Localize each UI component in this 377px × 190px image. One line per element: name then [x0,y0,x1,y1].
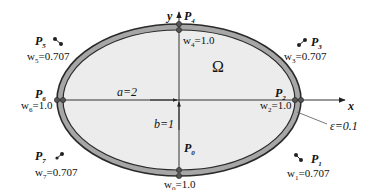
node-p2-outer [298,97,303,102]
p7-glyph-icon [55,152,64,160]
label-p5: P5 [35,34,46,50]
nurbs-ellipse-diagram: x y P4 [0,0,377,190]
node-p0-inner [176,167,181,172]
weight-w5: w5=0.707 [27,50,70,65]
y-axis-label: y [165,9,173,23]
label-p1: P1 [311,152,322,168]
p1-glyph-icon [294,153,303,162]
node-p4-outer [176,21,181,26]
p3-glyph-icon [297,38,307,47]
epsilon-label: ε=0.1 [330,119,358,133]
domain-omega-label: Ω [212,58,224,75]
a-dimension-label: a=2 [117,85,137,99]
x-axis-label: x [347,99,354,113]
p5-glyph-icon [53,37,63,46]
node-p4-inner [176,27,181,32]
node-p2-inner [292,97,297,102]
epsilon-leader-line [297,112,327,124]
node-p6-inner [60,97,65,102]
weight-w7: w7=0.707 [35,166,78,181]
label-p4: P4 [184,9,195,25]
weight-w3: w3=0.707 [284,50,327,65]
label-p3: P3 [311,35,322,51]
b-dimension-label: b=1 [154,117,174,131]
weight-w1: w1=0.707 [287,167,330,182]
weight-w6: w6=1.0 [21,99,53,114]
label-p7: P7 [35,149,46,165]
node-p6-outer [54,97,59,102]
weight-w0: w0=1.0 [164,178,196,190]
